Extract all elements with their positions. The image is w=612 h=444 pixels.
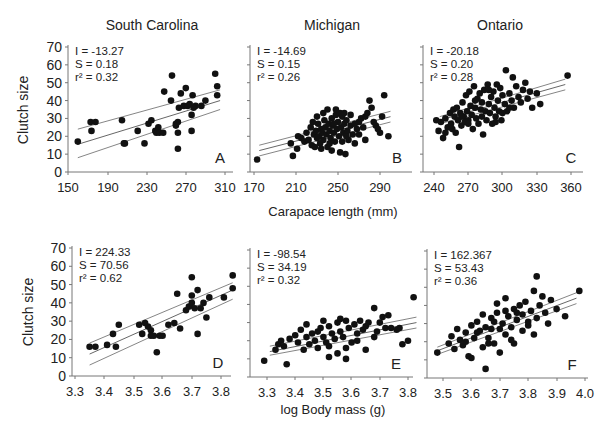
data-point bbox=[471, 83, 478, 90]
data-point bbox=[576, 288, 583, 295]
data-point bbox=[139, 331, 146, 338]
data-point bbox=[349, 131, 356, 138]
data-point bbox=[221, 294, 228, 301]
data-point bbox=[371, 305, 378, 312]
data-point bbox=[528, 308, 535, 315]
data-point bbox=[508, 337, 515, 344]
data-point bbox=[533, 315, 540, 322]
stat-slope: S = 0.15 bbox=[257, 58, 300, 70]
data-point bbox=[194, 331, 201, 338]
data-point bbox=[364, 110, 371, 117]
data-point bbox=[472, 104, 479, 111]
data-point bbox=[194, 287, 201, 294]
data-point bbox=[295, 339, 302, 346]
panel-letter: C bbox=[566, 149, 577, 166]
data-point bbox=[119, 117, 126, 124]
y-tick-label: 50 bbox=[46, 75, 62, 91]
panel-letter: D bbox=[213, 354, 224, 371]
data-point bbox=[564, 72, 571, 79]
panel-e: 3.33.43.53.63.73.8I = -98.54S = 34.19r² … bbox=[247, 248, 417, 400]
data-point bbox=[254, 156, 261, 163]
data-point bbox=[324, 106, 331, 113]
data-point bbox=[475, 121, 482, 128]
x-tick-label: 310 bbox=[214, 180, 236, 195]
x-tick-label: 210 bbox=[285, 180, 307, 195]
data-point bbox=[343, 356, 350, 363]
data-point bbox=[462, 338, 469, 345]
data-point bbox=[175, 129, 182, 136]
data-point bbox=[202, 97, 209, 104]
data-point bbox=[174, 290, 181, 297]
data-point bbox=[522, 79, 529, 86]
x-tick-label: 230 bbox=[136, 180, 158, 195]
data-point bbox=[309, 330, 316, 337]
data-point bbox=[352, 140, 359, 147]
data-point bbox=[183, 85, 190, 92]
data-point bbox=[465, 121, 472, 128]
x-tick-label: 3.7 bbox=[371, 385, 389, 400]
panel-letter: A bbox=[215, 149, 225, 166]
data-point bbox=[288, 140, 295, 147]
data-point bbox=[480, 311, 487, 318]
data-point bbox=[497, 85, 504, 92]
x-tick-label: 3.5 bbox=[125, 384, 143, 399]
data-point bbox=[214, 92, 221, 99]
data-point bbox=[292, 332, 299, 339]
data-point bbox=[362, 347, 369, 354]
data-point bbox=[154, 349, 161, 356]
data-point bbox=[354, 337, 361, 344]
data-point bbox=[545, 320, 552, 327]
data-point bbox=[488, 326, 495, 333]
data-point bbox=[341, 110, 348, 117]
data-point bbox=[506, 90, 513, 97]
data-point bbox=[326, 323, 333, 330]
data-point bbox=[502, 331, 509, 338]
data-point bbox=[472, 97, 479, 104]
data-point bbox=[160, 129, 167, 136]
data-point bbox=[151, 333, 158, 340]
data-point bbox=[474, 319, 481, 326]
stat-r-squared: r² = 0.32 bbox=[257, 274, 300, 286]
x-tick-label: 330 bbox=[526, 180, 548, 195]
data-point bbox=[198, 103, 205, 110]
stat-r-squared: r² = 0.26 bbox=[257, 71, 300, 83]
data-point bbox=[283, 361, 290, 368]
data-point bbox=[462, 329, 469, 336]
stat-intercept: I = -98.54 bbox=[257, 248, 307, 260]
data-point bbox=[331, 121, 338, 128]
data-point bbox=[354, 330, 361, 337]
x-tick-label: 360 bbox=[560, 180, 582, 195]
y-tick-label: 60 bbox=[46, 57, 62, 73]
data-point bbox=[337, 149, 344, 156]
data-point bbox=[348, 339, 355, 346]
data-point bbox=[514, 317, 521, 324]
panel-c: 240270300330360I = -20.18S = 0.20r² = 0.… bbox=[420, 45, 583, 195]
y-tick-label: 20 bbox=[46, 128, 62, 144]
top-y-axis-label: Clutch size bbox=[15, 76, 31, 145]
data-point bbox=[169, 72, 176, 79]
data-point bbox=[385, 312, 392, 319]
data-point bbox=[508, 97, 515, 104]
data-point bbox=[212, 71, 219, 78]
data-point bbox=[388, 325, 395, 332]
data-point bbox=[281, 343, 288, 350]
data-point bbox=[171, 320, 178, 327]
data-point bbox=[502, 308, 509, 315]
y-tick-label: 10 bbox=[50, 350, 66, 366]
data-point bbox=[360, 124, 367, 131]
data-point bbox=[410, 294, 417, 301]
data-point bbox=[315, 328, 322, 335]
data-point bbox=[520, 87, 527, 94]
col-title-michigan: Michigan bbox=[304, 17, 360, 33]
data-point bbox=[343, 345, 350, 352]
data-point bbox=[456, 144, 463, 151]
data-point bbox=[548, 297, 555, 304]
data-point bbox=[214, 83, 221, 90]
data-point bbox=[331, 336, 338, 343]
data-point bbox=[491, 319, 498, 326]
x-tick-label: 3.6 bbox=[462, 386, 480, 401]
panel-letter: B bbox=[392, 149, 402, 166]
data-point bbox=[175, 146, 182, 153]
data-point bbox=[445, 340, 452, 347]
data-point bbox=[200, 300, 207, 307]
